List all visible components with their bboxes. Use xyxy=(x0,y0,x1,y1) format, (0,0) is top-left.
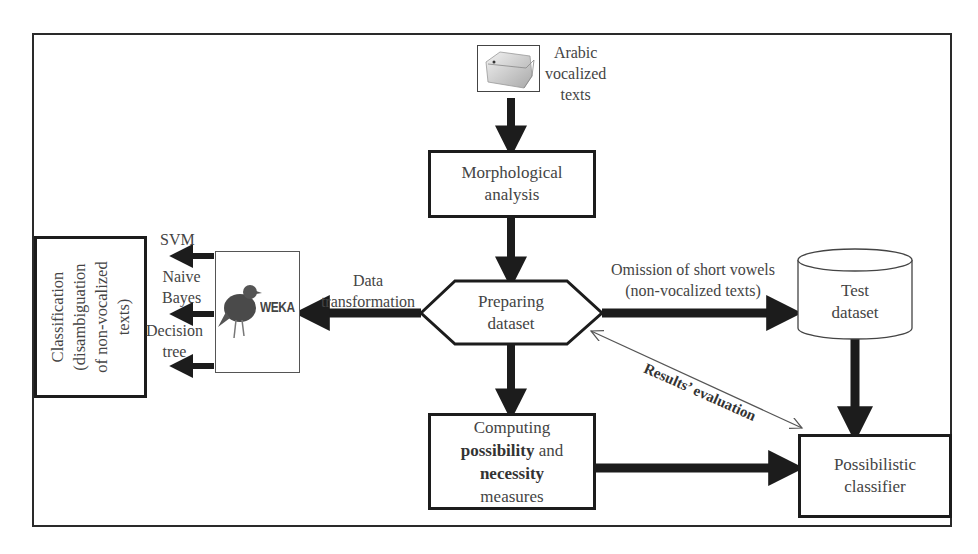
algorithm-naive-bayes: Naive Bayes xyxy=(162,266,201,308)
weka-logo-text: WEKA xyxy=(260,299,295,315)
possibilistic-classifier-box: Possibilistic classifier xyxy=(798,434,952,518)
arrow-results-evaluation xyxy=(591,331,802,428)
folder-icon xyxy=(477,45,540,92)
classification-box: Classification (disambiguation of non-vo… xyxy=(34,236,147,398)
omission-label: Omission of short vowels (non-vocalized … xyxy=(598,259,788,301)
test-dataset-label: Test dataset xyxy=(798,280,912,324)
morphological-analysis-box: Morphological analysis xyxy=(428,150,596,218)
algorithm-decision-tree: Decision tree xyxy=(146,320,203,362)
computing-measures-box: Computing possibility and necessity meas… xyxy=(428,413,596,510)
data-transformation-label: Data transformation xyxy=(310,270,426,312)
algorithm-svm: SVM xyxy=(160,229,195,250)
weka-box: WEKA xyxy=(215,251,300,373)
prepare-dataset-label: Preparing dataset xyxy=(455,291,567,335)
input-label: Arabic vocalized texts xyxy=(545,42,606,105)
